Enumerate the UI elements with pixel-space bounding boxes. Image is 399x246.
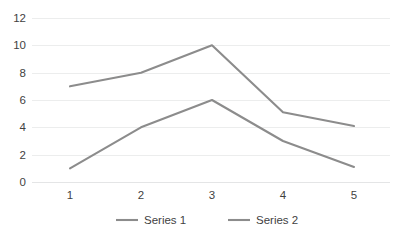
y-axis-tick-labels: 024681012 bbox=[13, 12, 26, 188]
x-tick-label: 5 bbox=[351, 189, 357, 201]
chart-legend: Series 1Series 2 bbox=[116, 214, 298, 226]
y-tick-label: 2 bbox=[20, 149, 26, 161]
x-tick-label: 4 bbox=[280, 189, 287, 201]
y-tick-label: 12 bbox=[13, 12, 26, 24]
y-tick-label: 4 bbox=[20, 121, 27, 133]
legend-item-1[interactable]: Series 1 bbox=[116, 214, 186, 226]
y-tick-label: 8 bbox=[20, 67, 26, 79]
series-line-1 bbox=[70, 100, 354, 168]
line-chart: 024681012 12345 Series 1Series 2 bbox=[0, 0, 399, 246]
x-axis-tick-labels: 12345 bbox=[67, 189, 357, 201]
legend-item-2[interactable]: Series 2 bbox=[228, 214, 298, 226]
chart-canvas: 024681012 12345 Series 1Series 2 bbox=[0, 0, 399, 246]
y-tick-label: 0 bbox=[20, 176, 26, 188]
y-tick-label: 10 bbox=[13, 39, 26, 51]
x-tick-label: 3 bbox=[209, 189, 215, 201]
legend-label-1: Series 1 bbox=[144, 214, 186, 226]
y-tick-label: 6 bbox=[20, 94, 26, 106]
series-line-2 bbox=[70, 45, 354, 126]
x-tick-label: 2 bbox=[138, 189, 144, 201]
series-lines-group bbox=[70, 45, 354, 168]
legend-label-2: Series 2 bbox=[256, 214, 298, 226]
x-tick-label: 1 bbox=[67, 189, 73, 201]
